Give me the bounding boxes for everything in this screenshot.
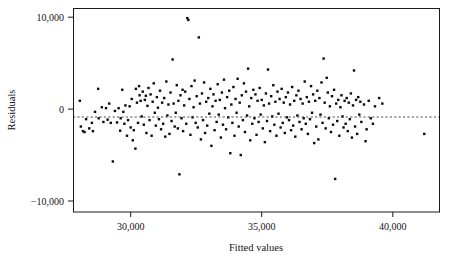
data-point [137,122,139,124]
data-point [148,119,150,121]
y-tick-label: 10,000 [37,12,65,23]
data-point [162,123,164,125]
data-point [337,99,339,101]
data-point [236,78,238,80]
data-point [240,154,242,156]
data-point [165,80,167,82]
data-point [305,123,307,125]
data-point [311,112,313,114]
data-point [288,119,290,121]
x-tick-label: 40,000 [379,221,407,232]
data-point [344,123,346,125]
data-point [192,106,194,108]
data-point [105,107,107,109]
data-point [133,129,135,131]
data-point [166,114,168,116]
data-point [255,134,257,136]
data-point [245,90,247,92]
data-point [259,113,261,115]
data-point [221,91,223,93]
data-point [262,127,264,129]
data-point [340,94,342,96]
data-point [190,85,192,87]
data-point [218,113,220,115]
data-point [327,91,329,93]
data-point [199,102,201,104]
data-point [138,85,140,87]
data-point [83,131,85,133]
data-point [270,95,272,97]
x-tick-label: 35,000 [248,221,276,232]
data-point [197,126,199,128]
data-point [307,133,309,135]
data-point [336,120,338,122]
data-point [209,88,211,90]
y-axis-title: Residuals [6,90,17,131]
data-point [261,99,263,101]
data-point [147,87,149,89]
data-point [354,125,356,127]
data-point [223,78,225,80]
data-point [145,132,147,134]
data-point [374,105,376,107]
data-point [360,121,362,123]
data-point [200,138,202,140]
data-point [315,125,317,127]
data-point [126,135,128,137]
data-point [163,97,165,99]
data-point [160,128,162,130]
data-point [322,57,324,59]
data-point [131,98,133,100]
data-point [339,106,341,108]
data-point [276,90,278,92]
data-point [123,123,125,125]
data-point [320,81,322,83]
data-point [196,95,198,97]
data-point [80,125,82,127]
data-point [280,88,282,90]
data-point [272,84,274,86]
data-point [316,90,318,92]
data-point [170,120,172,122]
data-point [325,127,327,129]
data-point [352,104,354,106]
data-point [297,90,299,92]
data-point [249,139,251,141]
data-point [332,124,334,126]
data-point [215,121,217,123]
x-axis-title: Fitted values [229,242,283,253]
data-point [117,107,119,109]
data-point [363,103,365,105]
data-point [146,105,148,107]
data-point [279,126,281,128]
data-point [172,102,174,104]
data-point [205,101,207,103]
data-point [188,98,190,100]
data-point [210,145,212,147]
data-point [217,83,219,85]
data-point [313,142,315,144]
data-point [257,121,259,123]
data-point [357,96,359,98]
data-point [292,124,294,126]
data-point [321,122,323,124]
data-point [296,114,298,116]
scatter-plot-canvas: 10,0000−10,000 30,00035,00040,000 Fitted… [0,0,449,258]
data-point [178,173,180,175]
data-point [247,67,249,69]
data-point [149,93,151,95]
data-point [145,95,147,97]
data-point [318,97,320,99]
data-point [330,131,332,133]
data-point [167,103,169,105]
data-point [349,118,351,120]
data-point [222,124,224,126]
data-point [338,135,340,137]
data-point [290,129,292,131]
data-point [219,99,221,101]
data-point [368,100,370,102]
data-point [102,121,104,123]
data-point [114,110,116,112]
data-point [127,119,129,121]
data-point [143,124,145,126]
